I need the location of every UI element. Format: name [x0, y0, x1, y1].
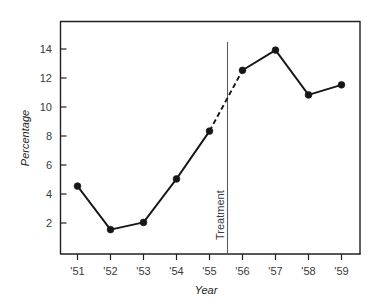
x-axis-tick-labels: '51 '52 '53 '54 '55 '56 '57 '58 '59	[70, 265, 348, 277]
data-point-52	[107, 226, 114, 233]
series-line-pre-treatment	[78, 131, 210, 230]
y-axis-ticks	[61, 49, 67, 223]
x-axis-title: Year	[195, 284, 219, 296]
y-tick-label-12: 12	[40, 72, 52, 84]
series-line-dashed-segment	[210, 70, 243, 131]
data-point-51	[74, 183, 81, 190]
x-tick-label-56: '56	[235, 265, 249, 277]
data-point-57	[272, 47, 279, 54]
y-tick-label-8: 8	[46, 130, 52, 142]
y-tick-label-4: 4	[46, 188, 52, 200]
y-tick-label-14: 14	[40, 43, 52, 55]
x-tick-label-58: '58	[301, 265, 315, 277]
x-tick-label-53: '53	[136, 265, 150, 277]
data-point-55	[206, 128, 213, 135]
y-axis-tick-labels: 14 12 10 8 6 4 2	[40, 43, 52, 229]
x-tick-label-59: '59	[334, 265, 348, 277]
x-tick-label-57: '57	[268, 265, 282, 277]
x-tick-label-51: '51	[70, 265, 84, 277]
series-markers	[74, 47, 345, 233]
x-axis-ticks	[78, 254, 342, 260]
y-tick-label-10: 10	[40, 101, 52, 113]
series-line-post-treatment	[243, 50, 342, 95]
data-point-59	[338, 81, 345, 88]
chart-figure: 14 12 10 8 6 4 2 '51 '52 '53 '54 '55	[0, 0, 382, 308]
x-tick-label-52: '52	[103, 265, 117, 277]
line-chart: 14 12 10 8 6 4 2 '51 '52 '53 '54 '55	[0, 0, 382, 308]
x-tick-label-55: '55	[202, 265, 216, 277]
y-tick-label-2: 2	[46, 217, 52, 229]
y-tick-label-6: 6	[46, 159, 52, 171]
x-tick-label-54: '54	[169, 265, 183, 277]
y-axis-title: Percentage	[19, 110, 31, 166]
data-point-58	[305, 92, 312, 99]
treatment-annotation-label: Treatment	[214, 190, 226, 240]
data-point-54	[173, 176, 180, 183]
data-point-53	[140, 219, 147, 226]
data-point-56	[239, 67, 246, 74]
